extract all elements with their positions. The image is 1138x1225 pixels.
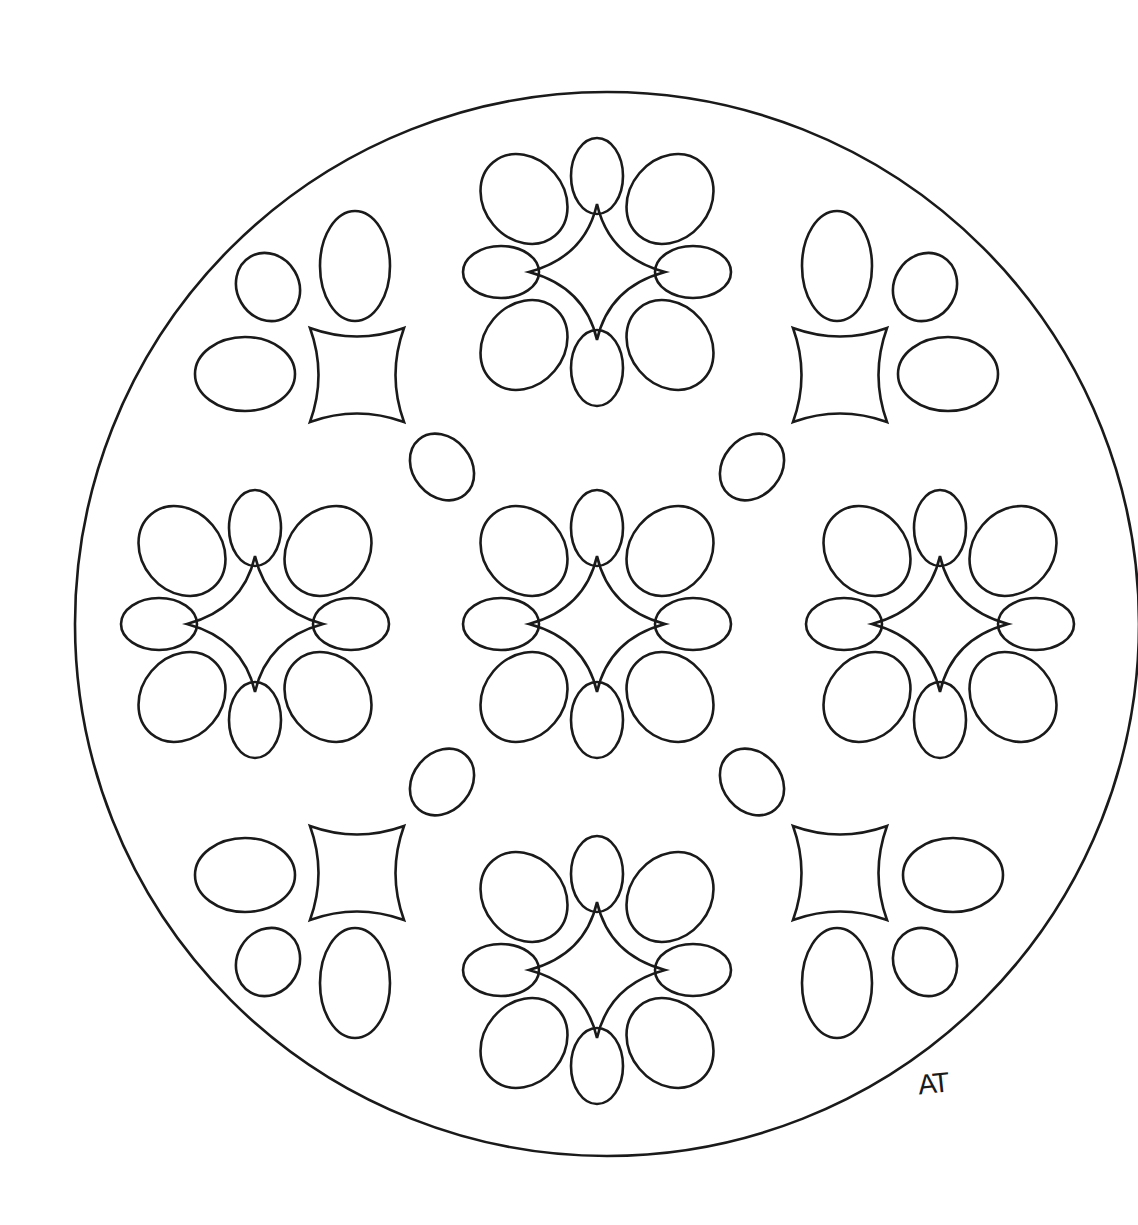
corner-top-left <box>195 211 404 422</box>
corner-top-right <box>793 211 998 422</box>
flower-right <box>806 489 1075 760</box>
connector-oval <box>707 736 798 828</box>
flower-left <box>121 489 390 760</box>
corner-bottom-right <box>793 826 1003 1038</box>
corner-bottom-left <box>195 826 404 1038</box>
connector-oval <box>397 736 488 828</box>
outer-circle <box>75 92 1138 1156</box>
artist-signature: AT <box>916 1067 949 1102</box>
connector-oval <box>707 421 798 513</box>
flower-top <box>463 137 732 408</box>
mandala-drawing <box>0 0 1138 1225</box>
flower-center <box>463 489 732 760</box>
flower-bottom <box>463 835 732 1106</box>
connector-oval <box>397 421 488 513</box>
